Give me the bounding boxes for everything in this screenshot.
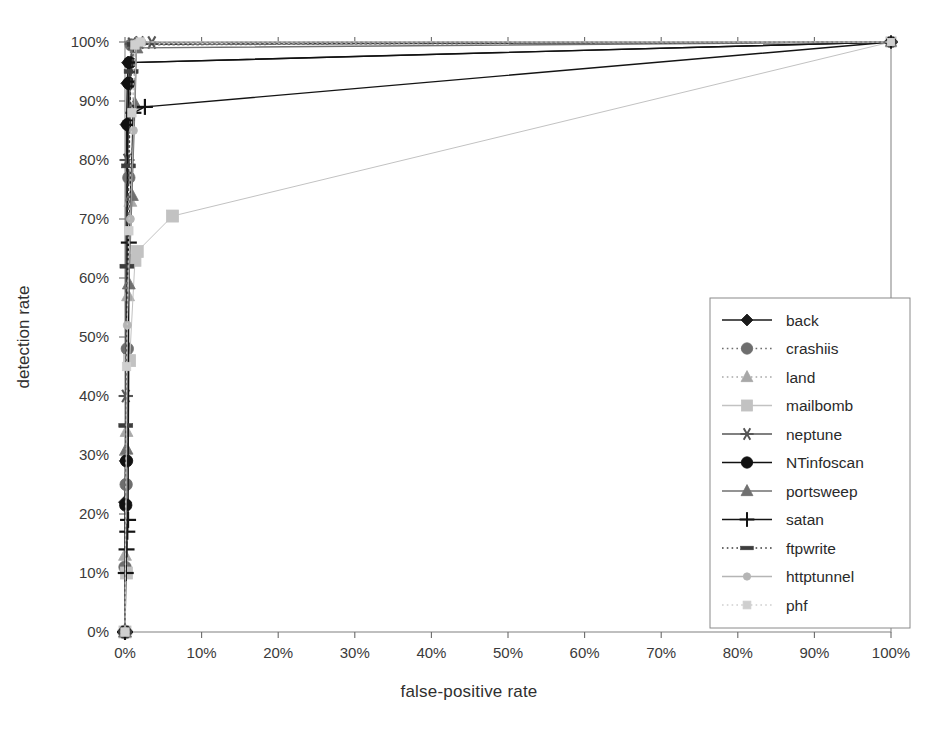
- marker-small-square: [743, 601, 751, 609]
- x-tick-label: 30%: [320, 644, 390, 661]
- y-tick-label: 0%: [49, 623, 109, 640]
- marker-dash: [120, 264, 134, 268]
- x-tick-label: 50%: [473, 644, 543, 661]
- y-tick-label: 40%: [49, 387, 109, 404]
- y-tick-label: 50%: [49, 328, 109, 345]
- legend-item-label: mailbomb: [786, 397, 853, 414]
- marker-circle: [123, 56, 135, 68]
- marker-square: [166, 210, 178, 222]
- marker-small-circle: [129, 127, 137, 135]
- marker-small-square: [122, 362, 130, 370]
- y-tick-label: 70%: [49, 210, 109, 227]
- legend-item-label: ftpwrite: [786, 540, 836, 557]
- legend-item-label: httptunnel: [786, 568, 854, 585]
- marker-circle: [741, 457, 752, 468]
- x-tick-label: 80%: [703, 644, 773, 661]
- legend: backcrashiislandmailbombneptuneNTinfosca…: [710, 298, 910, 628]
- marker-small-circle: [126, 215, 134, 223]
- legend-item-label: satan: [786, 511, 824, 528]
- x-tick-label: 0%: [90, 644, 160, 661]
- legend-item-label: neptune: [786, 426, 842, 443]
- legend-item-label: portsweep: [786, 483, 858, 500]
- y-tick-label: 90%: [49, 92, 109, 109]
- marker-small-square: [121, 628, 129, 636]
- marker-small-circle: [743, 573, 750, 580]
- legend-item-label: land: [786, 369, 815, 386]
- y-tick-label: 60%: [49, 269, 109, 286]
- marker-dash: [121, 164, 135, 168]
- marker-small-square: [128, 109, 136, 117]
- x-tick-label: 100%: [856, 644, 926, 661]
- y-axis-title: detection rate: [13, 285, 33, 388]
- legend-item-label: back: [786, 312, 819, 329]
- y-tick-label: 100%: [49, 33, 109, 50]
- legend-item-label: crashiis: [786, 340, 839, 357]
- x-tick-label: 90%: [779, 644, 849, 661]
- marker-square: [131, 245, 143, 257]
- marker-square: [741, 400, 752, 411]
- y-tick-label: 10%: [49, 564, 109, 581]
- legend-item-label: NTinfoscan: [786, 454, 864, 471]
- marker-circle: [741, 343, 752, 354]
- marker-small-square: [125, 227, 133, 235]
- marker-dash: [741, 546, 754, 550]
- marker-small-square: [136, 38, 144, 46]
- x-tick-label: 20%: [243, 644, 313, 661]
- legend-item-label: phf: [786, 597, 808, 614]
- y-tick-label: 20%: [49, 505, 109, 522]
- x-tick-label: 40%: [396, 644, 466, 661]
- y-tick-label: 80%: [49, 151, 109, 168]
- y-tick-label: 30%: [49, 446, 109, 463]
- marker-small-square: [887, 38, 894, 45]
- plot-canvas: backcrashiislandmailbombneptuneNTinfosca…: [0, 0, 938, 734]
- x-tick-label: 10%: [167, 644, 237, 661]
- x-tick-label: 70%: [626, 644, 696, 661]
- roc-chart: detection rate false-positive rate 0%10%…: [0, 0, 938, 734]
- x-tick-label: 60%: [550, 644, 620, 661]
- x-axis-title: false-positive rate: [0, 682, 938, 702]
- y-axis-title-container: detection rate: [10, 0, 36, 674]
